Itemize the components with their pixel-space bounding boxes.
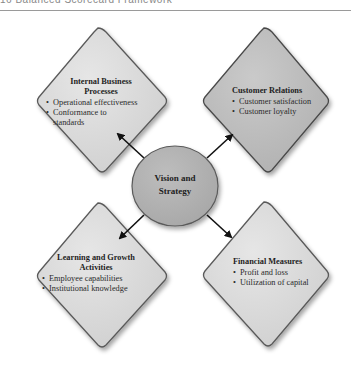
list-item: Customer satisfaction <box>232 97 312 107</box>
customer-relations-label: Customer Relations Customer satisfaction… <box>232 86 312 117</box>
list-item: Institutional knowledge <box>42 284 150 294</box>
list-item: Operational effectiveness <box>46 98 156 108</box>
arrow-to-financial-measures <box>207 215 231 237</box>
list-item: Profit and loss <box>233 268 323 278</box>
list-item: Customer loyalty <box>232 107 312 117</box>
list-item: Utilization of capital <box>233 278 323 288</box>
list-item-continuation: standards <box>46 118 156 128</box>
center-label: Vision and Strategy <box>135 172 215 198</box>
list-item: Employee capabilities <box>42 274 150 284</box>
list-item: Conformance to <box>46 108 156 118</box>
learning-growth-label: Learning and Growth Activities Employee … <box>42 253 150 294</box>
internal-business-label: Internal Business Processes Operational … <box>46 77 156 128</box>
financial-measures-label: Financial Measures Profit and loss Utili… <box>233 257 323 288</box>
arrow-to-customer-relations <box>207 135 232 158</box>
